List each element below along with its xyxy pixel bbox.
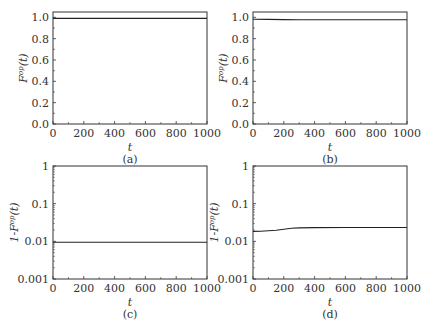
y-tick-label: 1.0 <box>32 11 50 24</box>
y-tick-label: 0.0 <box>32 118 50 131</box>
plot-frame <box>53 12 207 124</box>
y-tick-label: 0.8 <box>32 33 50 46</box>
y-tick-label: 0.4 <box>232 75 250 88</box>
figure: 020040060080010000.00.20.40.60.81.0t(a)F… <box>0 0 428 328</box>
x-tick-label: 400 <box>104 282 125 295</box>
chart-panel-c: 020040060080010000.0010.010.11t(c)1-Fop(… <box>8 160 221 321</box>
x-tick-label: 800 <box>166 127 187 140</box>
x-tick-label: 400 <box>304 127 325 140</box>
y-axis-label: Fop(t) <box>217 53 230 83</box>
y-tick-label: 0.8 <box>232 33 250 46</box>
x-tick-label: 1000 <box>393 282 421 295</box>
x-tick-label: 800 <box>366 282 387 295</box>
data-series-line <box>253 19 407 20</box>
y-axis-label: 1-Fop(t) <box>8 202 21 242</box>
x-tick-label: 400 <box>304 282 325 295</box>
x-tick-label: 0 <box>250 127 257 140</box>
data-series-line <box>253 228 407 232</box>
y-tick-label: 0.1 <box>232 198 250 211</box>
x-tick-label: 800 <box>166 282 187 295</box>
x-tick-label: 600 <box>335 127 356 140</box>
x-tick-label: 0 <box>50 127 57 140</box>
y-tick-label: 1.0 <box>232 11 250 24</box>
y-tick-label: 0.4 <box>32 75 50 88</box>
panel-label: (a) <box>122 153 137 166</box>
x-tick-label: 400 <box>104 127 125 140</box>
y-tick-label: 0.01 <box>25 235 50 248</box>
x-tick-label: 1000 <box>193 127 221 140</box>
chart-panel-d: 020040060080010000.0010.010.11t(d)1-Fop(… <box>208 160 421 321</box>
plot-frame <box>253 12 407 124</box>
y-tick-label: 0.2 <box>232 97 250 110</box>
x-tick-label: 1000 <box>393 127 421 140</box>
y-tick-label: 0.2 <box>32 97 50 110</box>
x-tick-label: 0 <box>50 282 57 295</box>
x-tick-label: 600 <box>335 282 356 295</box>
panel-label: (c) <box>123 308 138 321</box>
plot-frame <box>253 166 407 279</box>
y-tick-label: 1 <box>242 160 249 173</box>
y-tick-label: 0.6 <box>232 54 250 67</box>
chart-panel-b: 020040060080010000.00.20.40.60.81.0t(b)F… <box>217 11 421 166</box>
panel-label: (b) <box>322 153 338 166</box>
x-tick-label: 600 <box>135 127 156 140</box>
x-tick-label: 200 <box>73 127 94 140</box>
y-tick-label: 0.1 <box>32 198 50 211</box>
x-tick-label: 200 <box>73 282 94 295</box>
x-tick-label: 200 <box>273 127 294 140</box>
y-tick-label: 0.0 <box>232 118 250 131</box>
plot-frame <box>53 166 207 279</box>
chart-panel-a: 020040060080010000.00.20.40.60.81.0t(a)F… <box>17 11 221 166</box>
y-tick-label: 0.6 <box>32 54 50 67</box>
y-axis-label: 1-Fop(t) <box>208 202 221 242</box>
x-tick-label: 200 <box>273 282 294 295</box>
y-tick-label: 0.01 <box>225 235 250 248</box>
x-tick-label: 600 <box>135 282 156 295</box>
x-tick-label: 800 <box>366 127 387 140</box>
panel-label: (d) <box>322 308 338 321</box>
x-tick-label: 0 <box>250 282 257 295</box>
y-tick-label: 0.001 <box>218 273 250 286</box>
y-tick-label: 1 <box>42 160 49 173</box>
y-tick-label: 0.001 <box>18 273 50 286</box>
y-axis-label: Fop(t) <box>17 53 30 83</box>
